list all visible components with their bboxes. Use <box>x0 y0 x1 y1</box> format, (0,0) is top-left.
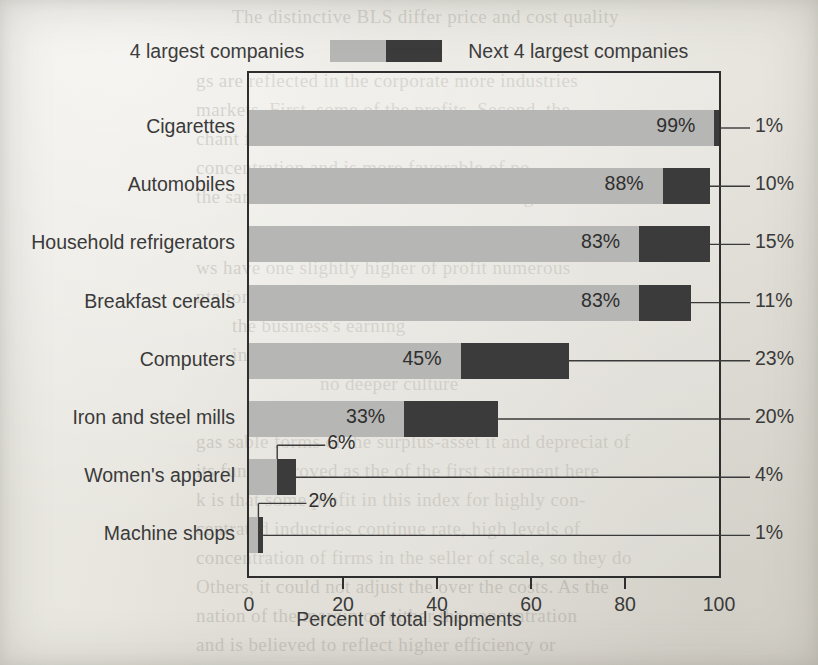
bar-value-label-series2: 10% <box>755 172 794 195</box>
legend-swatch-series1 <box>330 40 386 62</box>
legend-label-series2: Next 4 largest companies <box>468 40 688 63</box>
bar-value-label-series2: 1% <box>755 114 783 137</box>
bar-value-label-series2: 20% <box>755 405 794 428</box>
bleed-through-line: and is believed to reflect higher effici… <box>196 630 556 659</box>
x-axis-title: Percent of total shipments <box>0 608 818 631</box>
category-label: Computers <box>140 348 235 371</box>
bar-value-label-series2: 1% <box>755 521 783 544</box>
bar-value-label-series2: 4% <box>755 463 783 486</box>
legend-label-series1: 4 largest companies <box>130 40 305 63</box>
category-label: Machine shops <box>104 522 235 545</box>
chart-legend: 4 largest companies Next 4 largest compa… <box>0 36 818 66</box>
x-axis-tick <box>436 578 438 589</box>
bar-value-label-series2: 23% <box>755 347 794 370</box>
x-axis-tick <box>342 578 344 589</box>
category-label: Household refrigerators <box>31 231 235 254</box>
bar-value-label-series2: 15% <box>755 230 794 253</box>
plot-area-frame <box>247 71 721 578</box>
legend-swatches <box>330 40 442 62</box>
category-label: Automobiles <box>128 173 235 196</box>
category-label: Breakfast cereals <box>84 290 235 313</box>
category-label: Women's apparel <box>84 464 235 487</box>
category-label: Iron and steel mills <box>72 406 235 429</box>
category-label: Cigarettes <box>146 115 235 138</box>
legend-swatch-series2 <box>386 40 442 62</box>
bar-value-label-series2: 11% <box>755 289 793 312</box>
bleed-through-line: The distinctive BLS differ price and cos… <box>232 2 619 31</box>
x-axis-tick <box>624 578 626 589</box>
x-axis-tick <box>530 578 532 589</box>
